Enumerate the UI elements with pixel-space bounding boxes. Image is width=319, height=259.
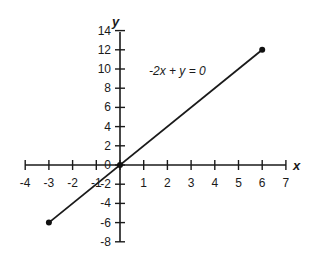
data-point: [46, 220, 52, 226]
y-tick-label: 2: [104, 139, 111, 153]
y-tick-label: -6: [100, 216, 111, 230]
x-tick-label: 6: [259, 176, 266, 190]
x-tick-label: 7: [283, 176, 290, 190]
x-tick-label: 5: [235, 176, 242, 190]
data-point: [117, 162, 123, 168]
y-tick-label: 12: [98, 43, 112, 57]
y-tick-label: 4: [104, 120, 111, 134]
x-tick-label: -2: [67, 176, 78, 190]
x-tick-label: -3: [44, 176, 55, 190]
y-tick-label: 14: [98, 24, 112, 38]
x-tick-label: 4: [211, 176, 218, 190]
y-axis-label: y: [111, 14, 120, 29]
x-axis-label: x: [292, 158, 301, 173]
y-tick-label: -4: [100, 196, 111, 210]
y-tick-label: -8: [100, 235, 111, 249]
y-tick-label: 8: [104, 81, 111, 95]
y-tick-label: 0: [104, 158, 111, 172]
x-tick-label: 1: [140, 176, 147, 190]
data-point: [259, 47, 265, 53]
coordinate-plane: -4-3-2-11234567 -8-6-4-202468101214 x y …: [0, 0, 319, 259]
y-tick-label: 6: [104, 100, 111, 114]
x-tick-label: 2: [164, 176, 171, 190]
x-tick-label: -4: [20, 176, 31, 190]
y-tick-label: 10: [98, 62, 112, 76]
x-tick-label: 3: [188, 176, 195, 190]
equation-label: -2x + y = 0: [149, 64, 206, 78]
